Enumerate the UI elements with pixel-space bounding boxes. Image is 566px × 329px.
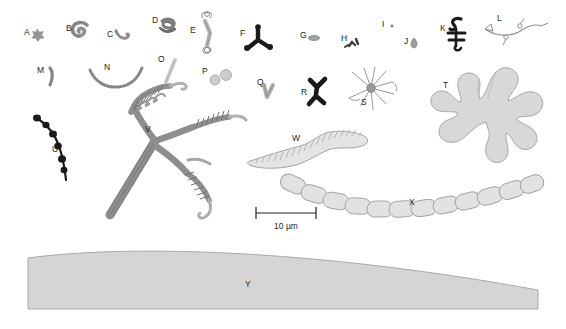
label-V: V [145, 124, 151, 134]
label-C: C [107, 29, 113, 39]
specimen-I-tiny-dot [391, 25, 394, 28]
label-Q: Q [257, 77, 264, 87]
label-G: G [300, 30, 307, 40]
scale-bar-label: 10 µm [274, 221, 298, 231]
label-W: W [292, 133, 300, 143]
label-J: J [404, 36, 408, 46]
label-F: F [240, 28, 245, 38]
label-Y: Y [245, 279, 251, 289]
label-X: X [409, 197, 415, 207]
label-S: S [361, 97, 367, 107]
label-N: N [104, 62, 110, 72]
figure-canvas: 10 µm A B C D E F G H I J K L M N O P Q … [0, 0, 566, 329]
label-O: O [158, 54, 165, 64]
label-E: E [190, 25, 196, 35]
label-L: L [497, 13, 502, 23]
label-B: B [66, 23, 72, 33]
label-U: U [52, 144, 58, 154]
label-K: K [440, 23, 446, 33]
specimen-G-oval-rod [309, 35, 320, 40]
label-I: I [382, 19, 384, 29]
label-R: R [301, 87, 307, 97]
label-T: T [443, 80, 448, 90]
label-P: P [202, 66, 208, 76]
label-M: M [37, 65, 44, 75]
label-D: D [152, 15, 158, 25]
label-H: H [341, 33, 347, 43]
label-A: A [24, 27, 30, 37]
